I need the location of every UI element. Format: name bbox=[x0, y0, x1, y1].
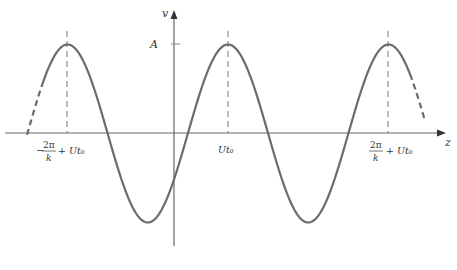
y-axis bbox=[171, 10, 178, 246]
x-axis-label: z bbox=[444, 136, 451, 149]
tick-right-denominator: k bbox=[373, 153, 378, 163]
tick-label-center: Ut₀ bbox=[218, 144, 234, 155]
tick-right-numerator: 2π bbox=[370, 140, 382, 150]
tick-right-suffix: + Ut₀ bbox=[386, 145, 413, 156]
x-axis bbox=[5, 130, 446, 137]
y-axis-label: v bbox=[162, 7, 169, 20]
tick-left-denominator: k bbox=[46, 153, 51, 163]
wave-curve-dashed-right bbox=[410, 74, 425, 121]
y-axis-arrow-icon bbox=[171, 10, 178, 19]
amplitude-label: A bbox=[149, 38, 158, 51]
tick-left-suffix: + Ut₀ bbox=[58, 145, 85, 156]
peak-guides bbox=[67, 31, 388, 133]
wave-figure: z v A − 2π k + Ut₀ Ut₀ 2π k + Ut₀ bbox=[0, 0, 457, 270]
tick-left-numerator: 2π bbox=[43, 140, 55, 150]
tick-label-right: 2π k + Ut₀ bbox=[369, 140, 413, 163]
wave-curve-dashed-left bbox=[27, 85, 42, 135]
tick-label-left: − 2π k + Ut₀ bbox=[36, 140, 85, 163]
